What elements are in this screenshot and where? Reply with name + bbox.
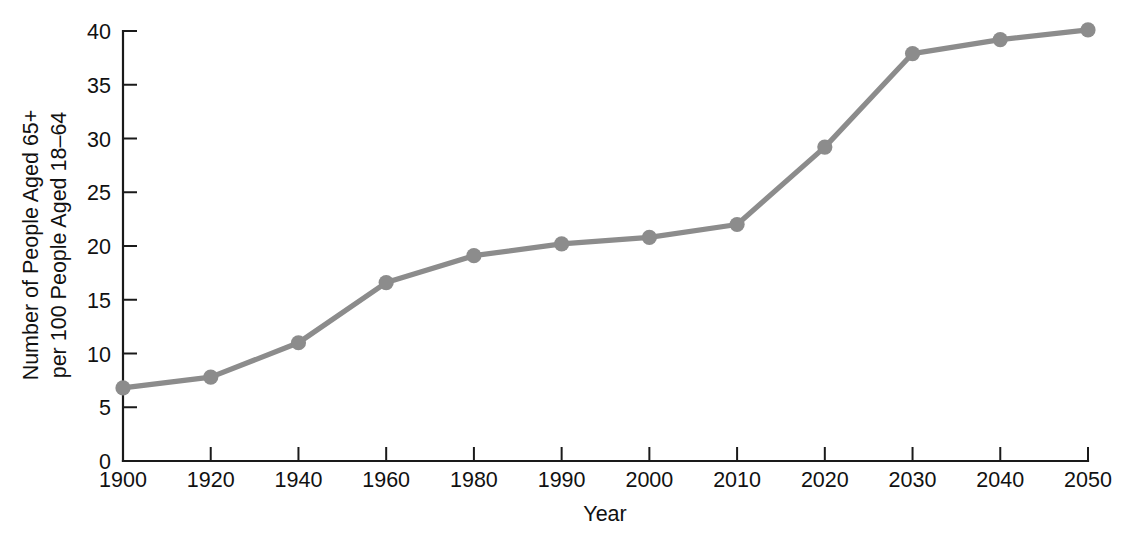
- axes: [123, 31, 1088, 461]
- data-point-marker: [115, 380, 130, 395]
- x-tick-label: 2050: [1064, 468, 1112, 492]
- y-axis-ticks: 0510152025303540: [87, 20, 137, 474]
- data-point-marker: [554, 236, 569, 251]
- data-point-marker: [291, 335, 306, 350]
- data-point-marker: [729, 217, 744, 232]
- y-tick-label: 35: [87, 74, 111, 98]
- y-tick-label: 30: [87, 128, 111, 152]
- data-point-marker: [466, 248, 481, 263]
- x-tick-label: 1940: [275, 468, 323, 492]
- x-tick-label: 1960: [362, 468, 410, 492]
- data-point-marker: [817, 140, 832, 155]
- y-axis-title: Number of People Aged 65+ per 100 People…: [19, 110, 71, 381]
- y-tick-label: 20: [87, 235, 111, 259]
- x-tick-label: 1980: [450, 468, 498, 492]
- x-tick-label: 2030: [889, 468, 937, 492]
- x-tick-label: 1900: [99, 468, 147, 492]
- chart-figure: Number of People Aged 65+ per 100 People…: [0, 0, 1129, 539]
- y-tick-label: 15: [87, 289, 111, 313]
- y-tick-label: 5: [99, 396, 111, 420]
- x-tick-label: 2040: [976, 468, 1024, 492]
- data-point-marker: [203, 370, 218, 385]
- y-tick-label: 40: [87, 20, 111, 44]
- x-tick-label: 1990: [538, 468, 586, 492]
- y-axis-title-line2: per 100 People Aged 18–64: [47, 112, 71, 379]
- data-point-marker: [1080, 22, 1095, 37]
- data-markers: [115, 22, 1095, 395]
- line-chart-canvas: Number of People Aged 65+ per 100 People…: [0, 0, 1129, 539]
- y-tick-label: 25: [87, 181, 111, 205]
- x-tick-label: 2020: [801, 468, 849, 492]
- x-tick-label: 2000: [625, 468, 673, 492]
- x-tick-label: 2010: [713, 468, 761, 492]
- data-point-marker: [379, 275, 394, 290]
- data-point-marker: [905, 46, 920, 61]
- data-line: [123, 30, 1088, 388]
- data-point-marker: [993, 32, 1008, 47]
- x-axis-ticks: 1900192019401960198019902000201020202030…: [99, 447, 1112, 492]
- x-axis-title: Year: [583, 502, 626, 526]
- y-axis-title-line1: Number of People Aged 65+: [19, 110, 43, 381]
- x-tick-label: 1920: [187, 468, 235, 492]
- data-point-marker: [642, 230, 657, 245]
- y-tick-label: 10: [87, 343, 111, 367]
